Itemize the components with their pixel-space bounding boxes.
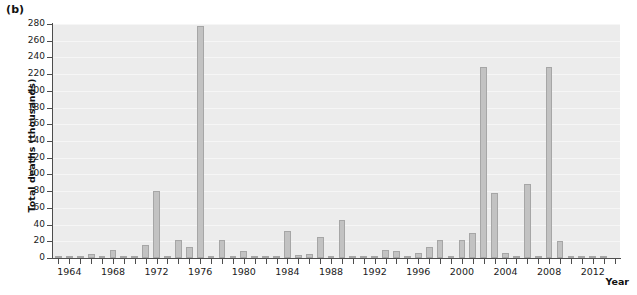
- x-axis-title: Year: [605, 276, 629, 287]
- x-tick-mark: [167, 259, 168, 264]
- x-tick-mark: [178, 259, 179, 264]
- y-tick-mark: [47, 108, 52, 109]
- x-tick-mark: [124, 259, 125, 264]
- panel-label: (b): [6, 3, 24, 16]
- x-tick-mark: [157, 259, 158, 264]
- x-tick-mark: [113, 259, 114, 264]
- x-tick-label: 1992: [355, 266, 395, 277]
- bar: [546, 67, 553, 258]
- x-tick-mark: [69, 259, 70, 264]
- x-tick-mark: [527, 259, 528, 264]
- y-tick-label: 120: [3, 153, 45, 162]
- x-tick-mark: [516, 259, 517, 264]
- y-tick-label: 80: [3, 186, 45, 195]
- y-tick-mark: [47, 24, 52, 25]
- x-tick-mark: [342, 259, 343, 264]
- x-tick-mark: [473, 259, 474, 264]
- y-tick-label: 160: [3, 119, 45, 128]
- x-tick-mark: [135, 259, 136, 264]
- x-tick-mark: [451, 259, 452, 264]
- bar: [382, 250, 389, 258]
- y-tick-label: 280: [3, 19, 45, 28]
- bar: [393, 251, 400, 258]
- y-tick-mark: [47, 158, 52, 159]
- y-tick-label: 180: [3, 103, 45, 112]
- bar: [186, 247, 193, 258]
- x-tick-mark: [91, 259, 92, 264]
- x-tick-mark: [506, 259, 507, 264]
- x-tick-label: 1968: [93, 266, 133, 277]
- plot-area: [53, 24, 620, 258]
- x-tick-label: 1980: [224, 266, 264, 277]
- x-tick-mark: [495, 259, 496, 264]
- y-tick-mark: [47, 141, 52, 142]
- bar: [459, 240, 466, 258]
- bar-series: [53, 24, 620, 258]
- x-tick-mark: [396, 259, 397, 264]
- bar: [480, 67, 487, 258]
- y-tick-label: 220: [3, 69, 45, 78]
- y-tick-mark: [47, 258, 52, 259]
- y-tick-label: 240: [3, 52, 45, 61]
- x-tick-mark: [538, 259, 539, 264]
- bar: [142, 245, 149, 258]
- x-tick-mark: [80, 259, 81, 264]
- x-tick-mark: [255, 259, 256, 264]
- x-tick-mark: [189, 259, 190, 264]
- bar: [240, 251, 247, 258]
- x-tick-mark: [440, 259, 441, 264]
- figure-panel-b: (b) Total deaths (thousands) 02040608010…: [0, 0, 637, 295]
- x-tick-mark: [560, 259, 561, 264]
- x-tick-label: 2000: [442, 266, 482, 277]
- x-tick-label: 1964: [49, 266, 89, 277]
- x-tick-mark: [418, 259, 419, 264]
- x-tick-mark: [222, 259, 223, 264]
- bar: [175, 240, 182, 258]
- bar: [339, 220, 346, 258]
- bar: [153, 191, 160, 258]
- y-axis-title: Total deaths (thousands): [26, 51, 37, 241]
- y-tick-mark: [47, 41, 52, 42]
- x-tick-mark: [407, 259, 408, 264]
- x-tick-mark: [233, 259, 234, 264]
- x-tick-mark: [331, 259, 332, 264]
- x-tick-mark: [386, 259, 387, 264]
- bar: [284, 231, 291, 258]
- y-tick-mark: [47, 91, 52, 92]
- x-tick-mark: [615, 259, 616, 264]
- x-tick-mark: [353, 259, 354, 264]
- x-tick-label: 2004: [486, 266, 526, 277]
- y-tick-label: 260: [3, 36, 45, 45]
- x-tick-label: 1988: [311, 266, 351, 277]
- y-tick-label: 200: [3, 86, 45, 95]
- x-tick-mark: [298, 259, 299, 264]
- y-tick-mark: [47, 57, 52, 58]
- x-tick-label: 1984: [267, 266, 307, 277]
- bar: [426, 247, 433, 258]
- x-tick-mark: [266, 259, 267, 264]
- x-tick-label: 1972: [137, 266, 177, 277]
- y-tick-mark: [47, 124, 52, 125]
- y-tick-label: 60: [3, 203, 45, 212]
- x-tick-mark: [320, 259, 321, 264]
- y-tick-label: 140: [3, 136, 45, 145]
- y-tick-mark: [47, 225, 52, 226]
- x-tick-mark: [571, 259, 572, 264]
- y-tick-label: 40: [3, 220, 45, 229]
- x-tick-label: 1996: [398, 266, 438, 277]
- x-tick-mark: [277, 259, 278, 264]
- x-tick-mark: [102, 259, 103, 264]
- x-tick-mark: [287, 259, 288, 264]
- x-axis-line: [52, 258, 621, 259]
- bar: [110, 250, 117, 258]
- bar: [491, 193, 498, 258]
- x-tick-label: 2008: [529, 266, 569, 277]
- x-tick-mark: [309, 259, 310, 264]
- x-tick-mark: [462, 259, 463, 264]
- x-tick-mark: [549, 259, 550, 264]
- y-tick-mark: [47, 74, 52, 75]
- bar: [437, 240, 444, 258]
- bar: [317, 237, 324, 258]
- bar: [557, 241, 564, 258]
- x-tick-mark: [593, 259, 594, 264]
